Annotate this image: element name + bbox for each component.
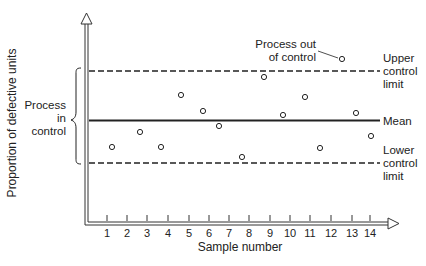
x-tick-label: 9: [267, 227, 273, 239]
data-point: [239, 154, 244, 159]
in-control-label-1: Process: [24, 99, 66, 111]
x-axis-title: Sample number: [198, 240, 283, 254]
mean-label: Mean: [383, 115, 412, 127]
x-tick-label: 13: [346, 227, 358, 239]
x-tick-label: 6: [206, 227, 212, 239]
lower-control-limit-label-2: control: [383, 157, 418, 169]
data-point: [158, 144, 163, 149]
x-tick-label: 8: [246, 227, 252, 239]
lower-control-limit-label-1: Lower: [383, 144, 414, 156]
upper-control-limit-label-2: control: [383, 65, 418, 77]
x-tick-label: 1: [104, 227, 110, 239]
upper-control-limit-label-3: limit: [383, 78, 404, 90]
out-of-control-label-1: Process out: [255, 38, 317, 50]
data-point: [368, 133, 373, 138]
lower-control-limit-label-3: limit: [383, 170, 404, 182]
x-tick-label: 3: [144, 227, 150, 239]
out-of-control-pointer: [318, 51, 338, 58]
control-chart: 1234567891011121314 Process out of contr…: [0, 0, 426, 266]
x-tick-label: 12: [325, 227, 337, 239]
data-point: [339, 56, 344, 61]
x-axis-tick-labels: 1234567891011121314: [104, 227, 376, 239]
data-point: [137, 129, 142, 134]
x-tick-label: 11: [304, 227, 315, 239]
x-axis-ticks: [107, 215, 370, 221]
data-point: [280, 112, 285, 117]
in-control-label-3: control: [31, 125, 66, 137]
data-point: [317, 145, 322, 150]
data-point: [261, 74, 266, 79]
y-axis: [81, 13, 92, 225]
x-tick-label: 7: [226, 227, 232, 239]
data-point: [302, 94, 307, 99]
data-points: [109, 56, 373, 159]
in-control-brace-icon: [71, 68, 81, 164]
data-point: [353, 110, 358, 115]
x-tick-label: 5: [186, 227, 192, 239]
y-axis-title: Proportion of defective units: [5, 49, 19, 198]
data-point: [109, 144, 114, 149]
data-point: [178, 92, 183, 97]
x-tick-label: 14: [364, 227, 376, 239]
data-point: [200, 108, 205, 113]
upper-control-limit-label-1: Upper: [383, 52, 414, 64]
x-tick-label: 10: [284, 227, 296, 239]
x-tick-label: 4: [165, 227, 171, 239]
data-point: [216, 123, 221, 128]
in-control-label-2: in: [57, 112, 66, 124]
x-tick-label: 2: [124, 227, 130, 239]
out-of-control-label-2: of control: [269, 51, 316, 63]
